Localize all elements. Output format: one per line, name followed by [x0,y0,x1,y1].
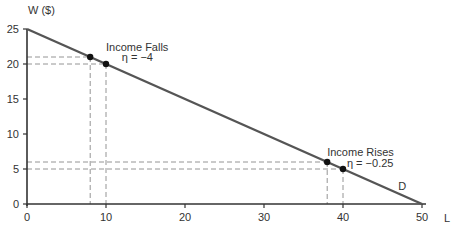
point [324,159,330,165]
x-axis-label: L [444,212,450,224]
axes: 010203040500510152025 [7,23,428,223]
y-axis-label: W ($) [28,4,55,16]
y-tick-label: 10 [7,128,19,140]
x-tick-label: 10 [100,211,112,223]
y-tick-label: 25 [7,23,19,35]
annotation: η = −4 [122,51,153,63]
demand-line [27,29,422,204]
y-tick-label: 20 [7,58,19,70]
demand-chart: 010203040500510152025 Income Fallsη = −4… [0,0,453,229]
dashed-guides [27,57,343,204]
point [103,61,109,67]
annotation: η = −0.25 [347,157,394,169]
y-tick-label: 0 [13,198,19,210]
x-tick-label: 50 [416,211,428,223]
y-tick-label: 5 [13,163,19,175]
y-tick-label: 15 [7,93,19,105]
point [340,166,346,172]
x-tick-label: 40 [337,211,349,223]
point [87,54,93,60]
x-tick-label: 20 [179,211,191,223]
x-tick-label: 0 [24,211,30,223]
demand-curve [27,29,422,204]
annotation: D [398,180,406,192]
x-tick-label: 30 [258,211,270,223]
